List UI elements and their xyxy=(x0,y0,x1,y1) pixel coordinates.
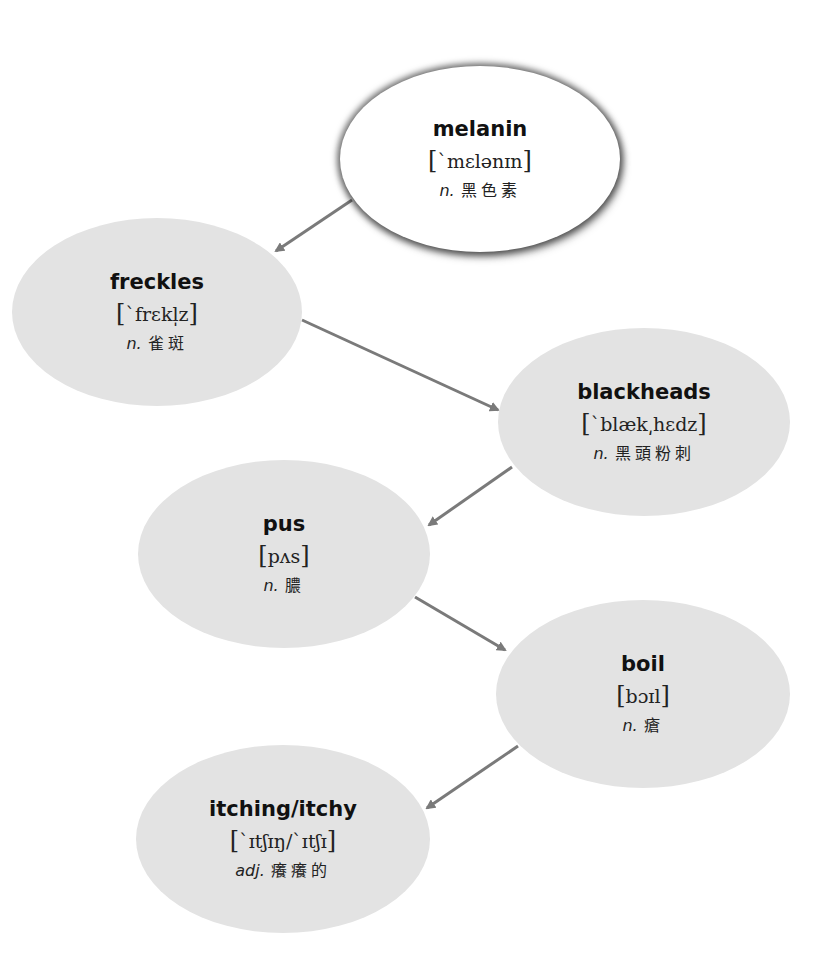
node-melanin: melanin [`mɛlənɪn] n.黑色素 xyxy=(340,66,620,252)
node-ipa: [pʌs] xyxy=(258,540,309,571)
node-ipa: [`blæk͵hɛdz] xyxy=(581,408,706,439)
node-ipa: [bɔɪl] xyxy=(616,680,670,711)
node-word: boil xyxy=(621,650,665,678)
node-word: pus xyxy=(263,510,305,538)
vocabulary-diagram: melanin [`mɛlənɪn] n.黑色素 freckles [`frɛk… xyxy=(0,0,816,965)
node-meaning: n.瘡 xyxy=(622,713,663,739)
node-blackheads: blackheads [`blæk͵hɛdz] n.黑頭粉刺 xyxy=(498,328,790,516)
arrow-blackheads-to-pus xyxy=(429,467,512,525)
node-meaning: n.黑色素 xyxy=(439,178,520,204)
node-word: blackheads xyxy=(577,378,711,406)
node-meaning: adj.癢癢的 xyxy=(235,858,331,884)
arrow-boil-to-itching xyxy=(427,746,518,808)
node-pus: pus [pʌs] n.膿 xyxy=(138,460,430,648)
node-meaning: n.膿 xyxy=(263,573,304,599)
arrow-pus-to-boil xyxy=(415,597,505,650)
node-word: melanin xyxy=(433,115,528,143)
node-meaning: n.雀斑 xyxy=(126,331,187,357)
node-boil: boil [bɔɪl] n.瘡 xyxy=(496,600,790,788)
node-freckles: freckles [`frɛkl̩z] n.雀斑 xyxy=(12,218,302,406)
arrow-freckles-to-blackheads xyxy=(302,320,498,410)
arrow-melanin-to-freckles xyxy=(276,200,352,251)
node-ipa: [`mɛlənɪn] xyxy=(428,145,532,176)
node-word: itching/itchy xyxy=(209,795,357,823)
node-meaning: n.黑頭粉刺 xyxy=(593,441,694,467)
node-word: freckles xyxy=(110,268,204,296)
node-ipa: [`ɪtʃɪŋ/`ɪtʃɪ] xyxy=(230,825,336,856)
node-ipa: [`frɛkl̩z] xyxy=(116,298,198,329)
node-itching: itching/itchy [`ɪtʃɪŋ/`ɪtʃɪ] adj.癢癢的 xyxy=(136,745,430,933)
